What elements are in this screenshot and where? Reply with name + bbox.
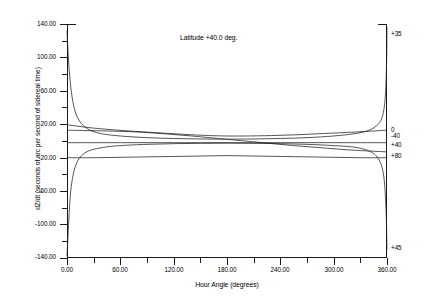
curve--40 xyxy=(67,125,387,136)
series-label-plus80: +80 xyxy=(391,152,402,159)
chart-figure: 140.00 100.00 60.00 20.00 -20.00 -60.00 … xyxy=(0,0,424,298)
x-axis-title: Hour Angle (degrees) xyxy=(67,281,387,288)
curve-layer xyxy=(0,0,424,298)
curve-+45 xyxy=(67,27,387,139)
curve-+35 xyxy=(67,143,387,256)
series-label-plus40: +40 xyxy=(391,141,402,148)
series-label-minus40: -40 xyxy=(391,132,400,139)
series-label-plus45: +45 xyxy=(391,244,402,251)
series-label-plus35: +35 xyxy=(391,30,402,37)
curve-0 xyxy=(67,130,387,152)
curve-+80 xyxy=(67,156,387,158)
y-axis-title: dZ/dt (seconds of arc per second of side… xyxy=(34,24,41,254)
chart-title: Latitude +40.0 deg. xyxy=(180,34,237,41)
